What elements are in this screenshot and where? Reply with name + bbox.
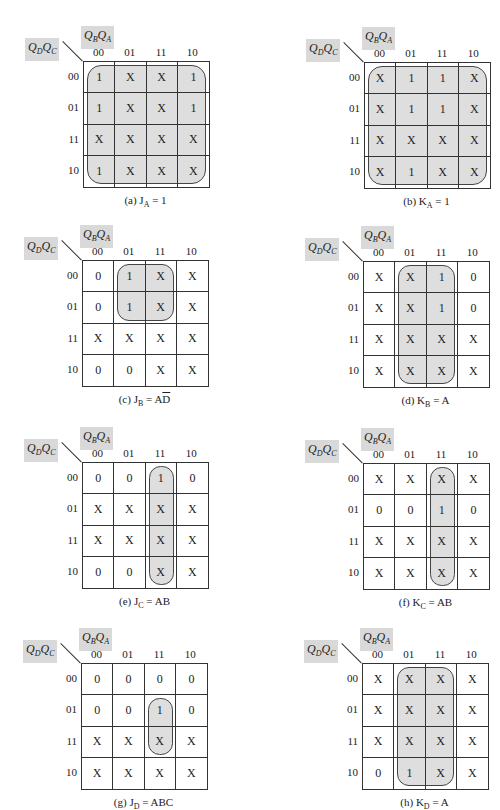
kmap-cell: X xyxy=(147,125,178,156)
kmap-cell: 0 xyxy=(83,557,114,588)
row-variable-label: QDQC xyxy=(305,238,339,261)
kmap-cell: X xyxy=(146,292,177,323)
row-header: 01 xyxy=(58,300,78,312)
kmap-cell: X xyxy=(457,664,488,695)
column-header: 11 xyxy=(427,47,458,59)
kmap-cell: X xyxy=(84,125,115,156)
column-header: 10 xyxy=(176,447,207,459)
row-header: 01 xyxy=(338,703,358,715)
map-caption: (b) KA = 1 xyxy=(347,195,500,210)
kmap-cell: X xyxy=(146,324,177,355)
kmap-cell: X xyxy=(428,126,459,157)
kmap-cell: X xyxy=(146,494,177,525)
kmap-cell: X xyxy=(178,125,209,156)
kmap-cell: X xyxy=(176,758,207,789)
kmap-cell: 0 xyxy=(363,758,394,789)
row-variable-label: QDQC xyxy=(24,439,58,462)
kmap-cell: 0 xyxy=(82,695,113,726)
kmap-cell: X xyxy=(145,758,176,789)
column-header: 10 xyxy=(175,648,206,660)
kmap-cell: 0 xyxy=(458,293,489,324)
corner-diagonal-line xyxy=(343,42,364,63)
kmap-cell: 0 xyxy=(177,463,208,494)
column-header: 10 xyxy=(177,46,208,58)
kmap-cell: X xyxy=(395,558,426,589)
row-header: 01 xyxy=(59,101,79,113)
kmap-cell: X xyxy=(82,758,113,789)
column-header: 01 xyxy=(112,648,143,660)
map-caption: (e) JC = AB xyxy=(65,595,225,610)
kmap-cell: X xyxy=(457,758,488,789)
kmap-cell: X xyxy=(145,727,176,758)
kmap-cell: 0 xyxy=(458,495,489,526)
kmap-cell: X xyxy=(428,157,459,188)
column-header: 00 xyxy=(83,46,114,58)
kmap-cell: 1 xyxy=(428,94,459,125)
kmap-cell: 1 xyxy=(396,157,427,188)
kmap-cell: X xyxy=(426,758,457,789)
kmap-cell: X xyxy=(113,758,144,789)
row-header: 00 xyxy=(57,672,77,684)
map-caption: (c) JB = AD xyxy=(65,393,225,408)
kmap-cell: 0 xyxy=(113,695,144,726)
map-caption: (g) JD = ABC xyxy=(64,796,224,810)
kmap-cell: X xyxy=(177,324,208,355)
row-header: 10 xyxy=(339,566,359,578)
kmap-cell: 1 xyxy=(84,156,115,187)
kmap-cell: 0 xyxy=(145,664,176,695)
kmap-cell: 1 xyxy=(427,495,458,526)
kmap-cell: X xyxy=(364,558,395,589)
kmap-cell: X xyxy=(426,695,457,726)
kmap-cell: X xyxy=(364,356,395,387)
row-header: 00 xyxy=(339,472,359,484)
column-header: 01 xyxy=(394,246,425,258)
column-header: 11 xyxy=(145,245,176,257)
kmap-cell: X xyxy=(427,325,458,356)
kmap-cell: 0 xyxy=(395,495,426,526)
row-header: 11 xyxy=(340,134,360,146)
row-header: 00 xyxy=(59,70,79,82)
corner-diagonal-line xyxy=(60,643,81,664)
kmap-cell: X xyxy=(82,727,113,758)
column-header: 11 xyxy=(146,46,177,58)
row-header: 00 xyxy=(58,471,78,483)
row-variable-label: QDQC xyxy=(24,237,58,260)
kmap-cell: X xyxy=(365,63,396,94)
row-header: 01 xyxy=(339,503,359,515)
column-header: 01 xyxy=(113,245,144,257)
kmap-cell: X xyxy=(364,262,395,293)
column-header: 00 xyxy=(363,448,394,460)
kmap-cell: 1 xyxy=(396,94,427,125)
kmap-cell: X xyxy=(114,526,145,557)
row-header: 10 xyxy=(58,565,78,577)
row-header: 01 xyxy=(57,703,77,715)
kmap-cell: 0 xyxy=(83,292,114,323)
column-header: 00 xyxy=(364,47,395,59)
kmap-cell: X xyxy=(146,261,177,292)
column-header: 11 xyxy=(145,447,176,459)
kmap-cell: X xyxy=(177,261,208,292)
map-caption: (f) KC = AB xyxy=(346,596,500,611)
row-header: 11 xyxy=(58,534,78,546)
kmap-cell: X xyxy=(147,62,178,93)
kmap-cell: 0 xyxy=(458,262,489,293)
kmap-cell: X xyxy=(178,156,209,187)
column-header: 01 xyxy=(114,46,145,58)
kmap-cell: 0 xyxy=(114,557,145,588)
row-header: 10 xyxy=(340,165,360,177)
kmap-cell: X xyxy=(395,527,426,558)
kmap-cell: X xyxy=(426,664,457,695)
map-caption: (d) KB = A xyxy=(346,394,500,409)
kmap-cell: 0 xyxy=(364,495,395,526)
kmap-cell: X xyxy=(177,292,208,323)
column-header: 10 xyxy=(457,448,488,460)
kmap-cell: X xyxy=(458,464,489,495)
map-caption: (a) JA = 1 xyxy=(66,194,226,209)
column-header: 00 xyxy=(82,447,113,459)
kmap-cell: X xyxy=(394,727,425,758)
kmap-cell: 1 xyxy=(178,93,209,124)
column-header: 10 xyxy=(176,245,207,257)
corner-diagonal-line xyxy=(341,643,362,664)
kmap-cell: 0 xyxy=(114,355,145,386)
kmap-cell: X xyxy=(115,156,146,187)
